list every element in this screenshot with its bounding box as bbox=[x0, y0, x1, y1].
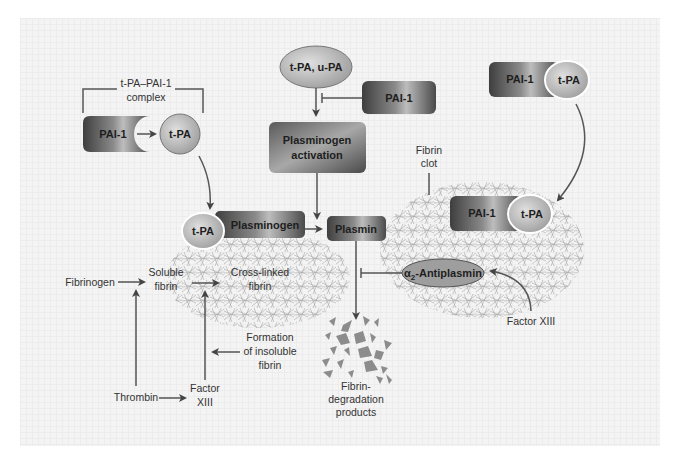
complex-label-line2: complex bbox=[126, 91, 166, 103]
activator-oval[interactable]: t-PA, u-PA bbox=[280, 46, 352, 88]
thrombin-label: Thrombin bbox=[114, 391, 159, 403]
pai1-label: PAI-1 bbox=[99, 128, 126, 140]
arrow-complex-to-clot bbox=[558, 104, 585, 200]
plasminogen-label: Plasminogen bbox=[231, 219, 300, 231]
arrow-tpa-to-bound bbox=[199, 156, 210, 208]
top-tpa-label: t-PA bbox=[558, 74, 580, 86]
fibrin-fragments bbox=[322, 316, 392, 384]
cross-linked-line2: fibrin bbox=[249, 280, 272, 292]
complex-bracket: t-PA–PAI-1 complex bbox=[83, 77, 203, 113]
plasmin-box[interactable]: Plasmin bbox=[327, 216, 386, 241]
clot-tpa-label: t-PA bbox=[521, 208, 543, 220]
fibrin-clot-label-line1: Fibrin bbox=[416, 144, 442, 156]
pai1-inhibitor-label: PAI-1 bbox=[385, 92, 412, 104]
fibrinolysis-diagram: t-PA–PAI-1 complex PAI-1 t-PA t-PA, u-PA… bbox=[0, 0, 678, 467]
tpa-circle[interactable]: t-PA bbox=[160, 114, 200, 154]
bound-tpa-label: t-PA bbox=[192, 225, 214, 237]
complex-label-line1: t-PA–PAI-1 bbox=[121, 77, 172, 89]
clot-bound-complex[interactable]: PAI-1 t-PA bbox=[450, 195, 552, 233]
factor-xiii-left-line2: XIII bbox=[197, 396, 213, 408]
tpa-label: t-PA bbox=[169, 128, 191, 140]
fdp-label-line2: degradation bbox=[328, 393, 384, 405]
antiplasmin-oval[interactable]: α2-Antiplasmin bbox=[402, 259, 484, 287]
fibrin-clot-label-line2: clot bbox=[421, 157, 437, 169]
activator-label: t-PA, u-PA bbox=[290, 61, 343, 73]
factor-xiii-left-line1: Factor bbox=[190, 382, 220, 394]
formation-line2: of insoluble bbox=[243, 345, 296, 357]
formation-line3: fibrin bbox=[259, 359, 282, 371]
factor-xiii-right-label: Factor XIII bbox=[507, 315, 555, 327]
fdp-label-line3: products bbox=[336, 406, 376, 418]
cross-linked-line1: Cross-linked bbox=[231, 266, 290, 278]
plasmin-label: Plasmin bbox=[335, 223, 377, 235]
clot-pai1-label: PAI-1 bbox=[468, 207, 495, 219]
soluble-fibrin-line2: fibrin bbox=[155, 280, 178, 292]
fibrinogen-label: Fibrinogen bbox=[65, 276, 115, 288]
top-right-complex[interactable]: PAI-1 t-PA bbox=[489, 61, 589, 99]
soluble-fibrin-line1: Soluble bbox=[148, 266, 183, 278]
fdp-label-line1: Fibrin- bbox=[341, 380, 371, 392]
formation-line1: Formation bbox=[246, 331, 293, 343]
activation-label-line1: Plasminogen bbox=[283, 134, 352, 146]
activation-label-line2: activation bbox=[291, 149, 343, 161]
plasminogen-activation-box[interactable]: Plasminogen activation bbox=[269, 122, 366, 173]
top-pai1-label: PAI-1 bbox=[506, 73, 533, 85]
pai1-inhibitor-box[interactable]: PAI-1 bbox=[362, 81, 436, 114]
